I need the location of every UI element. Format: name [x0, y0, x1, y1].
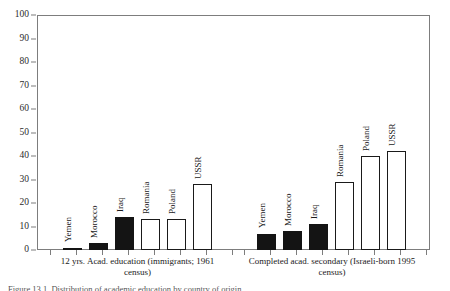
bar-group1-morocco[interactable]: Morocco	[89, 15, 108, 250]
bar-value-label: Iraq	[116, 198, 125, 213]
x-tick-mark	[348, 250, 349, 255]
bar-rect	[141, 219, 160, 250]
x-tick-mark	[154, 250, 155, 255]
bar-value-label: Morocco	[90, 206, 99, 239]
x-tick-mark	[270, 250, 271, 255]
y-tick-mark	[31, 203, 36, 204]
bar-value-label: Romania	[336, 145, 345, 178]
bar-rect	[89, 243, 108, 250]
bar-group2-iraq[interactable]: Iraq	[309, 15, 328, 250]
y-axis: 0 10 20 30 40 50 60 70 80 90 100	[0, 15, 33, 250]
y-tick-label: 10	[0, 222, 33, 232]
bar-rect	[167, 219, 186, 250]
bar-group2-romania[interactable]: Romania	[335, 15, 354, 250]
bar-rect	[335, 182, 354, 250]
bar-group1-yemen[interactable]: Yemen	[63, 15, 82, 250]
x-tick-mark	[400, 250, 401, 255]
x-tick-mark	[374, 250, 375, 255]
y-tick-mark	[31, 38, 36, 39]
x-tick-mark	[232, 250, 233, 255]
group-caption-1: 12 yrs. Acad. education (immigrants; 196…	[35, 256, 240, 278]
bar-group2-morocco[interactable]: Morocco	[283, 15, 302, 250]
group-caption-1-line1: 12 yrs. Acad. education (immigrants; 196…	[35, 256, 240, 267]
y-tick-mark	[31, 226, 36, 227]
y-tick-mark	[31, 85, 36, 86]
y-tick-label: 40	[0, 151, 33, 161]
x-tick-mark	[426, 250, 427, 255]
bar-group1-iraq[interactable]: Iraq	[115, 15, 134, 250]
group-caption-2-line1: Completed acad. secondary (Israeli-born …	[227, 256, 437, 267]
x-tick-mark	[322, 250, 323, 255]
y-tick-label: 20	[0, 198, 33, 208]
y-tick-mark	[31, 62, 36, 63]
x-tick-mark	[180, 250, 181, 255]
group-caption-1-line2: census)	[35, 267, 240, 278]
x-tick-mark	[296, 250, 297, 255]
bar-rect	[283, 231, 302, 250]
y-tick-mark	[31, 132, 36, 133]
bar-value-label: Iraq	[310, 205, 319, 220]
y-tick-label: 50	[0, 128, 33, 138]
bars-layer: Yemen Morocco Iraq Romania Poland USSR Y…	[37, 15, 430, 250]
bar-value-label: Poland	[168, 189, 177, 214]
y-tick-label: 70	[0, 81, 33, 91]
bar-value-label: USSR	[388, 123, 397, 146]
bar-value-label: USSR	[194, 156, 203, 179]
bar-value-label: Romania	[142, 182, 151, 215]
bar-group1-poland[interactable]: Poland	[167, 15, 186, 250]
bar-group1-ussr[interactable]: USSR	[193, 15, 212, 250]
x-tick-mark	[244, 250, 245, 255]
x-tick-mark	[50, 250, 51, 255]
bar-rect	[387, 151, 406, 250]
bar-value-label: Poland	[362, 126, 371, 151]
figure-caption: Figure 13.1. Distribution of academic ed…	[8, 284, 442, 291]
y-tick-label: 100	[0, 10, 33, 20]
bar-value-label: Yemen	[64, 217, 73, 242]
x-tick-mark	[76, 250, 77, 255]
x-tick-mark	[206, 250, 207, 255]
figure-container: 0 10 20 30 40 50 60 70 80 90 100 Yemen M	[0, 0, 450, 291]
bar-value-label: Yemen	[258, 203, 267, 228]
bar-group1-romania[interactable]: Romania	[141, 15, 160, 250]
group-caption-2-line2: census)	[227, 267, 437, 278]
y-tick-label: 30	[0, 175, 33, 185]
y-tick-label: 60	[0, 104, 33, 114]
bar-group2-ussr[interactable]: USSR	[387, 15, 406, 250]
bar-rect	[193, 184, 212, 250]
bar-group2-yemen[interactable]: Yemen	[257, 15, 276, 250]
y-tick-label: 90	[0, 34, 33, 44]
bar-rect	[257, 234, 276, 251]
bar-value-label: Morocco	[284, 194, 293, 227]
y-tick-mark	[31, 15, 36, 16]
group-caption-2: Completed acad. secondary (Israeli-born …	[227, 256, 437, 278]
y-tick-label: 0	[0, 245, 33, 255]
x-tick-mark	[128, 250, 129, 255]
y-tick-mark	[31, 109, 36, 110]
bar-group2-poland[interactable]: Poland	[361, 15, 380, 250]
y-tick-mark	[31, 179, 36, 180]
bar-rect	[309, 224, 328, 250]
x-tick-mark	[102, 250, 103, 255]
y-tick-mark	[31, 250, 36, 251]
bar-rect	[361, 156, 380, 250]
y-tick-mark	[31, 156, 36, 157]
bar-rect	[115, 217, 134, 250]
y-tick-label: 80	[0, 57, 33, 67]
group-captions: 12 yrs. Acad. education (immigrants; 196…	[37, 256, 430, 280]
